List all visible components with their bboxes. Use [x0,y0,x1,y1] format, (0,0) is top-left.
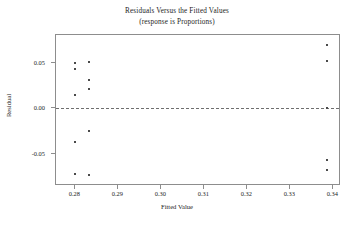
data-point [88,174,90,176]
data-point [326,60,328,62]
data-point [326,159,328,161]
y-axis-title: Residual [5,86,12,126]
x-axis-tick [160,185,161,189]
x-axis-tick [117,185,118,189]
x-axis-title: Fitted Value [0,203,354,210]
residual-plot: Residuals Versus the Fitted Values (resp… [0,0,354,226]
x-axis-tick [203,185,204,189]
y-axis-tick [51,62,55,63]
x-axis-tick-label: 0.30 [155,190,166,197]
title-block: Residuals Versus the Fitted Values (resp… [0,6,354,28]
y-axis-tick-label: 0.05 [34,58,45,65]
x-axis-tick-label: 0.34 [327,190,338,197]
x-axis-tick [289,185,290,189]
data-point [88,88,90,90]
x-axis-tick [74,185,75,189]
data-point [74,141,76,143]
data-point [88,130,90,132]
data-point [74,62,76,64]
data-point [74,68,76,70]
data-point [88,61,90,63]
chart-subtitle: (response is Proportions) [0,17,354,28]
x-axis-tick-label: 0.32 [241,190,252,197]
data-point [326,44,328,46]
x-axis-tick-label: 0.31 [198,190,209,197]
x-axis-tick-label: 0.28 [69,190,80,197]
plot-panel [55,34,340,185]
y-axis-tick [51,107,55,108]
y-axis-tick-label: 0.00 [34,104,45,111]
x-axis-tick-label: 0.33 [284,190,295,197]
x-axis-tick [332,185,333,189]
data-point [74,173,76,175]
data-point [326,107,328,109]
data-point [326,169,328,171]
x-axis-tick [246,185,247,189]
y-axis-tick [51,153,55,154]
data-point [88,79,90,81]
zero-reference-line [56,108,339,109]
page-title: Residuals Versus the Fitted Values [0,6,354,17]
x-axis-tick-label: 0.29 [112,190,123,197]
y-axis-tick-label: -0.05 [32,149,45,156]
data-point [74,94,76,96]
